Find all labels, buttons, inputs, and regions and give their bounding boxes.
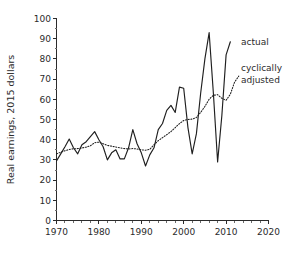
x-tick-label-1980: 1980 [87, 227, 110, 237]
x-tick-label-2000: 2000 [172, 227, 195, 237]
series-line-cyclically-adjusted [57, 76, 239, 154]
y-axis-title: Real earnings, 2015 dollars [5, 55, 16, 185]
legend: actualcyclicallyadjusted [241, 37, 283, 85]
legend-label-cyclically: cyclically [241, 63, 283, 73]
x-tick-label-1970: 1970 [45, 227, 68, 237]
y-tick-label-20: 20 [40, 175, 52, 185]
y-tick-label-60: 60 [40, 95, 52, 105]
series-line-actual [57, 33, 231, 166]
line-chart: 0102030405060708090100 19701980199020002… [0, 0, 288, 254]
x-tick-label-1990: 1990 [130, 227, 153, 237]
y-axis: 0102030405060708090100 [34, 14, 57, 226]
y-tick-label-100: 100 [34, 14, 51, 24]
y-tick-label-70: 70 [40, 74, 52, 84]
y-tick-label-0: 0 [45, 216, 51, 226]
y-tick-label-80: 80 [40, 54, 52, 64]
y-tick-label-50: 50 [40, 115, 52, 125]
data-series-group [57, 33, 239, 166]
y-tick-label-10: 10 [40, 196, 52, 206]
legend-label-adjusted: adjusted [241, 75, 280, 85]
x-tick-label-2010: 2010 [215, 227, 238, 237]
chart-figure: 0102030405060708090100 19701980199020002… [0, 0, 288, 254]
y-tick-label-40: 40 [40, 135, 52, 145]
y-tick-label-90: 90 [40, 34, 52, 44]
x-tick-label-2020: 2020 [257, 227, 280, 237]
x-axis: 197019801990200020102020 [45, 221, 280, 237]
y-tick-label-30: 30 [40, 155, 52, 165]
legend-label-actual: actual [241, 37, 269, 47]
